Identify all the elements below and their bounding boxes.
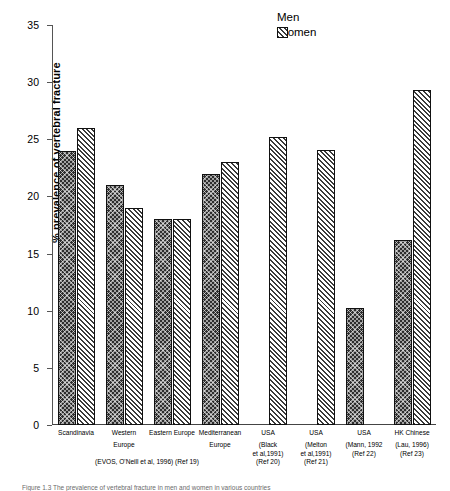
- bar-series-group: [52, 25, 436, 425]
- figure-caption: Figure 1.3 The prevalence of vertebral f…: [22, 484, 432, 491]
- figure-container: Men Women % prevalence of vertebral frac…: [0, 0, 450, 491]
- legend-item-men: Men: [277, 12, 316, 23]
- plot-area: % prevalence of vertebral fracture 05101…: [52, 25, 436, 425]
- x-label-group-7: HK Chinese(Lau, 1996)(Ref 23): [384, 429, 440, 458]
- bar-women-7: [413, 90, 431, 425]
- bar-men-2: [154, 219, 172, 425]
- y-tick-label-15: 15: [27, 248, 39, 260]
- bar-women-2: [173, 219, 191, 425]
- legend-label-men: Men: [277, 12, 299, 23]
- x-label-sub-7: (Lau, 1996)(Ref 23): [384, 441, 440, 458]
- y-tick-label-30: 30: [27, 76, 39, 88]
- x-axis-labels: ScandinaviaWesternEuropeEastern EuropeMe…: [52, 429, 436, 481]
- y-tick-label-25: 25: [27, 133, 39, 145]
- bar-women-5: [317, 150, 335, 425]
- y-tick-label-35: 35: [27, 19, 39, 31]
- y-tick-label-20: 20: [27, 190, 39, 202]
- y-tick-label-5: 5: [33, 362, 39, 374]
- x-label-main-7: HK Chinese: [384, 429, 440, 437]
- bar-women-0: [77, 128, 95, 425]
- bar-men-6: [346, 308, 364, 425]
- bar-women-1: [125, 208, 143, 425]
- x-label-sub-1: Europe: [96, 441, 152, 449]
- bar-women-3: [221, 162, 239, 425]
- bar-men-7: [394, 240, 412, 425]
- evos-footnote: (EVOS, O'Neill et al, 1996) (Ref 19): [52, 458, 242, 465]
- y-tick-0: 0: [47, 425, 52, 426]
- bar-men-0: [58, 151, 76, 425]
- bar-men-3: [202, 174, 220, 425]
- bar-men-1: [106, 185, 124, 425]
- y-tick-label-10: 10: [27, 305, 39, 317]
- y-tick-label-0: 0: [33, 419, 39, 431]
- bar-women-4: [269, 137, 287, 425]
